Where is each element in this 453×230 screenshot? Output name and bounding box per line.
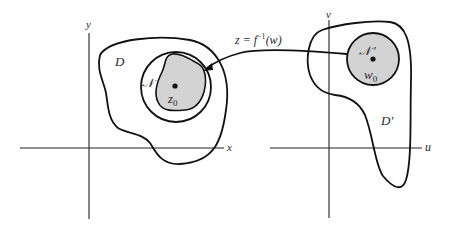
neighborhood-N-prime-label: 𝒩 ′: [359, 44, 376, 58]
left-plane: x y D 𝒩 z0: [20, 18, 232, 219]
diagram-canvas: x y D 𝒩 z0 u v D′ 𝒩 ′: [0, 0, 453, 230]
neighborhood-N-label: 𝒩: [142, 76, 157, 90]
mapping-superscript: −1: [257, 32, 266, 41]
mapping-label: z = f−1(w): [234, 32, 282, 47]
point-w0-subscript: 0: [373, 74, 378, 84]
v-axis-label: v: [326, 8, 331, 20]
u-axis-label: u: [425, 140, 431, 154]
y-axis-label: y: [85, 18, 91, 30]
point-z0-dot: [172, 83, 177, 88]
mapping-curve: [207, 50, 347, 68]
domain-D-label: D: [114, 54, 125, 69]
inverse-mapping-diagram: x y D 𝒩 z0 u v D′ 𝒩 ′: [0, 0, 453, 230]
right-plane: u v D′ 𝒩 ′ w0: [270, 8, 431, 218]
x-axis-label: x: [226, 141, 232, 153]
point-z0-subscript: 0: [173, 98, 178, 108]
domain-D-prime-label: D′: [380, 113, 393, 128]
preimage-region: [156, 54, 206, 111]
inverse-mapping-arrow: z = f−1(w): [203, 32, 347, 71]
point-w0-dot: [370, 56, 375, 61]
